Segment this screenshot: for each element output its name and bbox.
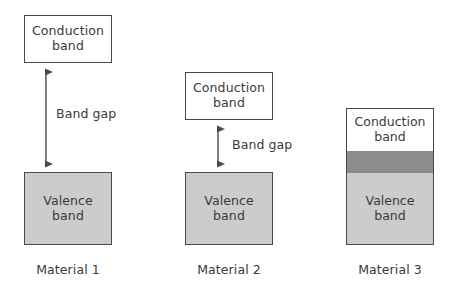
material-1-caption: Material 1 — [3, 262, 133, 277]
conduction-band-label-line1: Conduction — [355, 115, 426, 130]
valence-band-label-line2: band — [213, 209, 245, 224]
material-2-conduction-band-box: Conduction band — [185, 72, 273, 120]
conduction-band-label-line2: band — [374, 130, 405, 145]
material-1-conduction-band-box: Conduction band — [24, 15, 112, 63]
conduction-band-label-line1: Conduction — [32, 24, 104, 39]
material-1-band-gap-label: Band gap — [56, 106, 116, 121]
conduction-band-label-line1: Conduction — [193, 81, 265, 96]
material-2-valence-band-box: Valence band — [185, 172, 273, 245]
material-3-valence-band-box: Valence band — [347, 173, 433, 244]
material-3-conduction-band-box: Conduction band — [347, 109, 433, 151]
material-3-band-overlap-region — [347, 151, 433, 173]
valence-band-label-line1: Valence — [43, 194, 93, 209]
valence-band-label-line2: band — [52, 209, 84, 224]
material-1-valence-band-box: Valence band — [24, 172, 112, 245]
conduction-band-label-line2: band — [52, 39, 84, 54]
material-3-caption: Material 3 — [325, 262, 455, 277]
material-2-band-gap-label: Band gap — [232, 137, 292, 152]
valence-band-label-line2: band — [374, 209, 405, 224]
material-2-caption: Material 2 — [164, 262, 294, 277]
conduction-band-label-line2: band — [213, 96, 245, 111]
band-structure-diagram: Conduction band Band gap Valence band Ma… — [0, 0, 458, 295]
material-3-band-stack: Conduction band Valence band — [346, 108, 434, 245]
valence-band-label-line1: Valence — [366, 194, 415, 209]
valence-band-label-line1: Valence — [204, 194, 254, 209]
